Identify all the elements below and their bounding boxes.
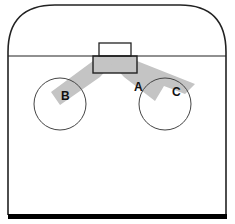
goal-net — [99, 43, 131, 56]
bottom-bar — [8, 214, 227, 219]
rink-boards — [8, 5, 226, 215]
label-a: A — [134, 80, 143, 94]
label-b: B — [61, 89, 70, 103]
rink-diagram: B A C — [0, 0, 235, 224]
label-c: C — [172, 85, 181, 99]
